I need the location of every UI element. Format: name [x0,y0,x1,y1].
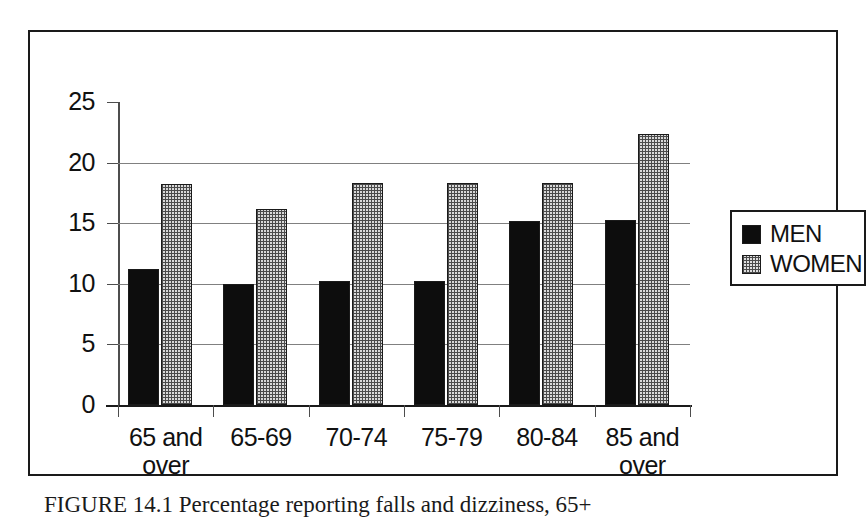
legend-swatch-women-icon [742,255,761,274]
bars-layer [118,102,690,405]
x-axis-separator [213,405,214,417]
bar-women-3 [447,183,478,405]
x-axis-separator [118,405,119,417]
x-axis-separator [309,405,310,417]
legend-item-men: MEN [742,219,864,249]
bar-men-3 [414,281,445,405]
bar-men-2 [319,281,350,405]
x-axis-label: 70-74 [309,424,404,452]
y-tick-5 [107,344,118,345]
x-axis-label: 85 and over [595,424,690,479]
y-tick-25 [107,102,118,103]
bar-men-5 [605,220,636,405]
bar-men-1 [223,284,254,405]
x-axis-separator [690,405,691,417]
y-axis-label: 15 [43,210,95,235]
legend-label-women: WOMEN [770,252,862,276]
x-axis-separator [499,405,500,417]
y-tick-10 [107,284,118,285]
x-axis-label: 75-79 [404,424,499,452]
y-tick-20 [107,163,118,164]
y-axis-label: 5 [43,331,95,356]
legend-swatch-men-icon [742,225,761,244]
bar-women-1 [256,209,287,405]
y-axis-label: 0 [43,392,95,417]
y-axis-label: 25 [43,89,95,114]
x-axis-label: 65 and over [118,424,213,479]
x-axis-line [106,405,692,407]
x-axis-label: 80-84 [499,424,594,452]
x-axis-separator [404,405,405,417]
bar-men-4 [509,221,540,405]
legend-label-men: MEN [770,222,822,246]
figure-caption: FIGURE 14.1 Percentage reporting falls a… [44,492,834,518]
bar-women-5 [638,134,669,405]
bar-women-2 [352,183,383,405]
y-tick-15 [107,223,118,224]
legend-item-women: WOMEN [742,249,864,279]
bar-women-4 [542,183,573,405]
x-axis-separator [595,405,596,417]
y-axis-label: 10 [43,271,95,296]
x-axis-label: 65-69 [213,424,308,452]
bar-women-0 [161,184,192,405]
figure-frame: 0510152025 65 and over65-6970-7475-7980-… [28,30,838,476]
y-axis-label: 20 [43,150,95,175]
chart-legend: MEN WOMEN [730,210,866,286]
bar-men-0 [128,269,159,405]
